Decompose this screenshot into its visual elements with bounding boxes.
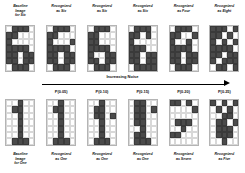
bottom-label-row: Baseline Image for One Recognized as One… — [0, 152, 245, 166]
grid-slot-six-3 — [122, 25, 163, 72]
bottom-label-1: Recognized as One — [41, 152, 82, 161]
top-label-3: Recognized as Six — [122, 4, 163, 13]
grid-slot-one-5 — [204, 99, 245, 146]
pixel-grid — [5, 99, 35, 146]
top-label-row: Baseline Image for Six Recognized as Six… — [0, 4, 245, 18]
grid-slot-six-2 — [82, 25, 123, 72]
grid-slot-one-4 — [163, 99, 204, 146]
top-label-2: Recognized as Six — [82, 4, 123, 13]
top-label-0: Baseline Image for Six — [0, 4, 41, 18]
noise-axis: Increasing Noise P(0.05) P(0.10) P(0.15)… — [0, 74, 245, 98]
top-label-1: Recognized as Six — [41, 4, 82, 13]
prob-label-2: P(0.10) — [82, 89, 123, 94]
pixel-cell — [29, 138, 35, 144]
pixel-grid — [209, 99, 239, 146]
pixel-cell — [233, 64, 239, 70]
grid-slot-six-5 — [204, 25, 245, 72]
pixel-cell — [110, 64, 116, 70]
bottom-label-5: Recognized as Five — [204, 152, 245, 161]
pixel-cell — [70, 64, 76, 70]
arrow-line — [42, 84, 225, 85]
pixel-grid — [87, 99, 117, 146]
grid-slot-one-2 — [82, 99, 123, 146]
digit-six-row — [0, 25, 245, 72]
right-arrow-icon — [224, 80, 230, 86]
pixel-cell — [110, 138, 116, 144]
pixel-grid — [169, 99, 199, 146]
pixel-cell — [151, 64, 157, 70]
bottom-label-2: Recognized as One — [82, 152, 123, 161]
pixel-grid — [128, 99, 158, 146]
grid-slot-one-1 — [41, 99, 82, 146]
noise-axis-title: Increasing Noise — [0, 74, 245, 79]
prob-label-5: P(0.25) — [204, 89, 245, 94]
pixel-grid — [87, 25, 117, 72]
top-label-5: Recognized as Eight — [204, 4, 245, 13]
grid-slot-six-0 — [0, 25, 41, 72]
pixel-grid — [209, 25, 239, 72]
prob-label-0 — [0, 89, 41, 94]
prob-label-4: P(0.20) — [163, 89, 204, 94]
digit-one-row — [0, 99, 245, 146]
grid-slot-one-3 — [122, 99, 163, 146]
prob-label-3: P(0.15) — [122, 89, 163, 94]
prob-label-1: P(0.05) — [41, 89, 82, 94]
pixel-cell — [70, 138, 76, 144]
pixel-grid — [46, 99, 76, 146]
pixel-cell — [29, 64, 35, 70]
bottom-label-0: Baseline Image for One — [0, 152, 41, 166]
grid-slot-one-0 — [0, 99, 41, 146]
bottom-label-4: Recognized as Seven — [163, 152, 204, 161]
pixel-grid — [5, 25, 35, 72]
pixel-cell — [192, 138, 198, 144]
top-label-4: Recognized as Four — [163, 4, 204, 13]
pixel-grid — [128, 25, 158, 72]
pixel-cell — [233, 138, 239, 144]
grid-slot-six-4 — [163, 25, 204, 72]
bottom-label-3: Recognized as One — [122, 152, 163, 161]
grid-slot-six-1 — [41, 25, 82, 72]
pixel-cell — [151, 138, 157, 144]
probability-label-row: P(0.05) P(0.10) P(0.15) P(0.20) P(0.25) — [0, 89, 245, 94]
pixel-cell — [192, 64, 198, 70]
pixel-grid — [169, 25, 199, 72]
pixel-grid — [46, 25, 76, 72]
noise-robustness-figure: Baseline Image for Six Recognized as Six… — [0, 0, 245, 173]
